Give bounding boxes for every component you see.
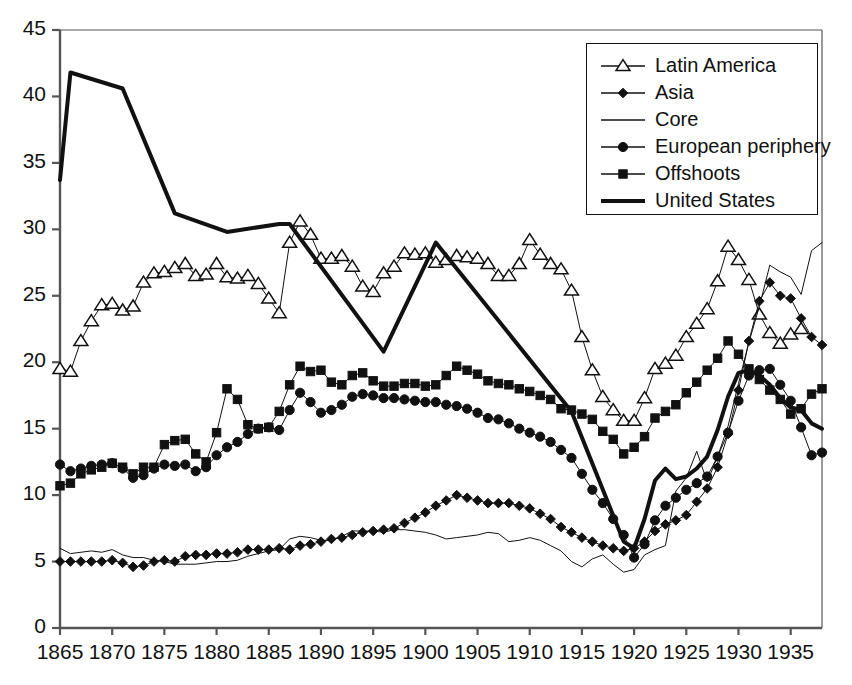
series-asia — [55, 278, 827, 572]
legend-swatch-open-triangle — [597, 56, 649, 76]
filled-square-marker — [348, 371, 356, 379]
open-triangle-marker — [690, 317, 704, 328]
small-filled-diamond-marker — [483, 498, 493, 508]
filled-square-marker — [818, 385, 826, 393]
filled-circle-marker — [295, 388, 304, 397]
filled-square-marker — [254, 424, 262, 432]
legend-item-asia[interactable]: Asia — [597, 79, 817, 106]
open-triangle-marker — [178, 257, 192, 268]
small-filled-diamond-marker — [87, 557, 97, 567]
filled-square-marker — [713, 354, 721, 362]
open-triangle-marker — [262, 292, 276, 303]
legend-swatch-none — [597, 191, 649, 211]
series-line — [60, 282, 822, 566]
open-triangle-marker — [638, 392, 652, 403]
open-triangle-marker — [596, 390, 610, 401]
legend-item-european-periphery[interactable]: European periphery — [597, 133, 817, 160]
open-triangle-marker — [523, 234, 537, 245]
filled-circle-marker — [525, 428, 534, 437]
small-filled-diamond-marker — [452, 490, 462, 500]
filled-square-marker — [672, 401, 680, 409]
small-filled-diamond-marker — [431, 501, 441, 511]
filled-square-marker — [56, 482, 64, 490]
filled-circle-marker — [577, 469, 586, 478]
filled-circle-marker — [66, 467, 75, 476]
legend-swatch-none — [597, 110, 649, 130]
filled-circle-marker — [588, 485, 597, 494]
small-filled-diamond-marker — [525, 504, 535, 514]
open-triangle-marker — [105, 297, 119, 308]
filled-square-marker — [139, 463, 147, 471]
open-triangle-marker — [606, 404, 620, 415]
legend-label: Core — [655, 108, 698, 131]
small-filled-diamond-marker — [817, 340, 827, 350]
filled-square-marker — [129, 470, 137, 478]
small-filled-diamond-marker — [347, 530, 357, 540]
series-european-periphery — [55, 364, 826, 562]
filled-square-marker — [108, 459, 116, 467]
y-axis-tick-label: 0 — [0, 614, 46, 638]
y-axis-tick-label: 45 — [0, 16, 46, 40]
filled-square-marker — [661, 407, 669, 415]
small-filled-diamond-marker — [514, 501, 524, 511]
filled-circle-marker — [181, 460, 190, 469]
legend-item-united-states[interactable]: United States — [597, 187, 817, 214]
filled-circle-marker — [473, 408, 482, 417]
small-filled-diamond-marker — [66, 557, 76, 567]
small-filled-diamond-marker — [504, 498, 514, 508]
filled-square-marker — [171, 436, 179, 444]
legend-item-offshoots[interactable]: Offshoots — [597, 160, 817, 187]
filled-square-marker — [421, 382, 429, 390]
filled-circle-marker — [348, 392, 357, 401]
filled-square-marker — [494, 379, 502, 387]
small-filled-diamond-marker — [358, 528, 368, 538]
small-filled-diamond-marker — [702, 484, 712, 494]
open-triangle-marker — [763, 327, 777, 338]
legend-swatch-filled-circle — [597, 137, 649, 157]
small-filled-diamond-marker — [180, 551, 190, 561]
filled-square-marker — [546, 395, 554, 403]
small-filled-diamond-marker — [786, 294, 796, 304]
open-triangle-marker — [283, 236, 297, 247]
filled-circle-marker — [379, 394, 388, 403]
filled-square-marker — [473, 370, 481, 378]
small-filled-diamond-marker — [567, 528, 577, 538]
small-filled-diamond-marker — [379, 525, 389, 535]
legend-label: Latin America — [655, 54, 776, 77]
series-core — [60, 243, 822, 573]
filled-circle-marker — [765, 364, 774, 373]
filled-square-marker — [265, 423, 273, 431]
filled-circle-marker — [316, 408, 325, 417]
small-filled-diamond-marker — [264, 545, 274, 555]
filled-square-marker — [693, 378, 701, 386]
filled-circle-marker — [243, 429, 252, 438]
y-axis-tick-label: 15 — [0, 415, 46, 439]
open-triangle-marker — [74, 335, 88, 346]
filled-square-marker — [515, 385, 523, 393]
small-filled-diamond-marker — [473, 496, 483, 506]
filled-square-marker — [526, 387, 534, 395]
filled-circle-marker — [640, 540, 649, 549]
filled-square-marker — [150, 463, 158, 471]
filled-square-marker — [244, 420, 252, 428]
small-filled-diamond-marker — [306, 539, 316, 549]
open-triangle-marker — [84, 315, 98, 326]
small-filled-diamond-marker — [671, 516, 681, 526]
filled-circle-marker — [327, 405, 336, 414]
small-filled-diamond-marker — [535, 509, 545, 519]
open-triangle-marker — [126, 300, 140, 311]
legend-item-latin-america[interactable]: Latin America — [597, 52, 817, 79]
filled-square-marker — [306, 367, 314, 375]
filled-circle-marker — [431, 397, 440, 406]
small-filled-diamond-marker — [577, 533, 587, 543]
small-filled-diamond-marker — [55, 557, 65, 567]
small-filled-diamond-marker — [97, 557, 107, 567]
small-filled-diamond-marker — [389, 524, 399, 534]
filled-circle-marker — [306, 397, 315, 406]
legend-item-core[interactable]: Core — [597, 106, 817, 133]
small-filled-diamond-marker — [118, 558, 128, 568]
filled-circle-marker — [546, 437, 555, 446]
filled-square-marker — [87, 466, 95, 474]
filled-circle-marker — [462, 404, 471, 413]
open-triangle-marker — [210, 257, 224, 268]
